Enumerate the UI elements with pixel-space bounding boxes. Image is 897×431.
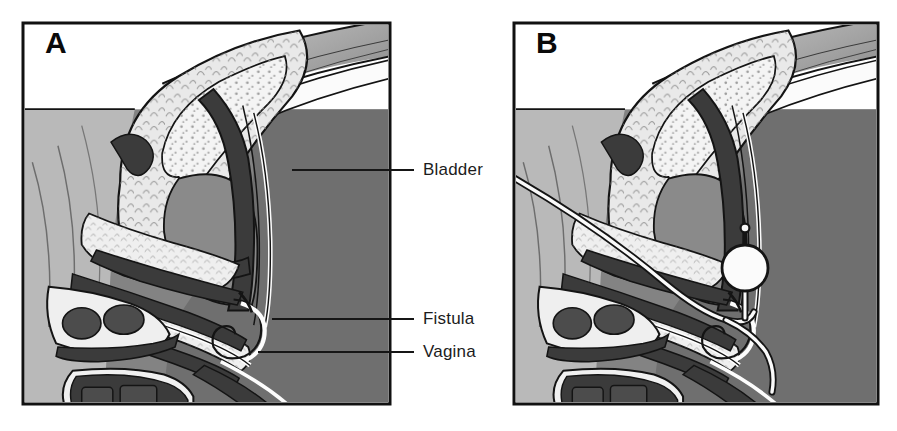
annotation-label-bladder: Bladder: [423, 160, 483, 180]
foley-balloon: [722, 245, 768, 291]
annotation-label-fistula: Fistula: [423, 309, 474, 329]
annotation-label-vagina: Vagina: [423, 342, 476, 362]
anatomy-illustration: [0, 0, 897, 431]
panel-a-anatomy: [25, 20, 391, 410]
panel-letter-b: B: [536, 26, 558, 60]
panel-b-anatomy: [514, 20, 879, 410]
panel-letter-a: A: [45, 26, 67, 60]
figure-root: A B Bladder Fistula Vagina: [0, 0, 897, 431]
